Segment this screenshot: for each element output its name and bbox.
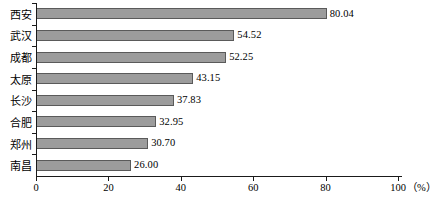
x-axis-tick-label: 0 (33, 183, 38, 194)
bar-row: 80.04 (37, 3, 437, 25)
bar (37, 116, 156, 127)
bar (37, 30, 234, 41)
bar-value-label: 32.95 (159, 117, 183, 128)
category-label: 太原 (0, 68, 34, 90)
y-axis-tick (32, 90, 36, 91)
bar-row: 54.52 (37, 25, 437, 47)
bar-row: 43.15 (37, 68, 437, 90)
y-axis-tick (32, 111, 36, 112)
category-label: 西安 (0, 3, 34, 25)
category-label: 南昌 (0, 154, 34, 176)
bar-chart: 西安 武汉 成都 太原 长沙 合肥 郑州 南昌 80.04 54.52 52.2… (0, 0, 438, 206)
category-label: 长沙 (0, 90, 34, 112)
x-axis-tick (326, 177, 327, 181)
bar (37, 73, 193, 84)
y-axis-tick (32, 133, 36, 134)
x-axis-tick-label: 80 (320, 183, 331, 194)
category-label: 武汉 (0, 25, 34, 47)
bar-value-label: 26.00 (134, 160, 158, 171)
bar-row: 32.95 (37, 111, 437, 133)
x-axis-tick (36, 177, 37, 181)
bar-row: 30.70 (37, 133, 437, 155)
bar-value-label: 43.15 (196, 73, 220, 84)
x-axis-tick (181, 177, 182, 181)
bar-value-label: 54.52 (237, 30, 261, 41)
x-axis-tick-label: 20 (103, 183, 114, 194)
y-axis-tick (32, 68, 36, 69)
bar-value-label: 30.70 (151, 138, 175, 149)
bar (37, 8, 327, 19)
bar (37, 138, 148, 149)
bar-value-label: 37.83 (177, 95, 201, 106)
bar (37, 160, 131, 171)
bar-row: 37.83 (37, 90, 437, 112)
bar-row: 52.25 (37, 46, 437, 68)
category-label: 郑州 (0, 133, 34, 155)
bar (37, 52, 226, 63)
category-label: 合肥 (0, 111, 34, 133)
category-label: 成都 (0, 46, 34, 68)
bar-value-label: 80.04 (330, 9, 354, 20)
y-axis-tick (32, 46, 36, 47)
bar (37, 95, 174, 106)
x-axis-tick (398, 177, 399, 181)
x-axis-tick-label: 40 (176, 183, 187, 194)
y-axis-tick (32, 25, 36, 26)
y-axis-tick (32, 3, 36, 4)
x-axis-unit-label: （%） (407, 183, 436, 194)
y-axis-tick (32, 154, 36, 155)
x-axis-tick (108, 177, 109, 181)
bars-container: 80.04 54.52 52.25 43.15 37.83 32.95 30.7… (37, 3, 437, 176)
bar-value-label: 52.25 (229, 52, 253, 63)
x-axis-tick-label: 60 (248, 183, 259, 194)
x-axis-tick-label: 100 (390, 183, 406, 194)
x-axis-tick (253, 177, 254, 181)
x-axis-line (36, 176, 402, 177)
bar-row: 26.00 (37, 154, 437, 176)
category-axis-labels: 西安 武汉 成都 太原 长沙 合肥 郑州 南昌 (0, 3, 34, 176)
